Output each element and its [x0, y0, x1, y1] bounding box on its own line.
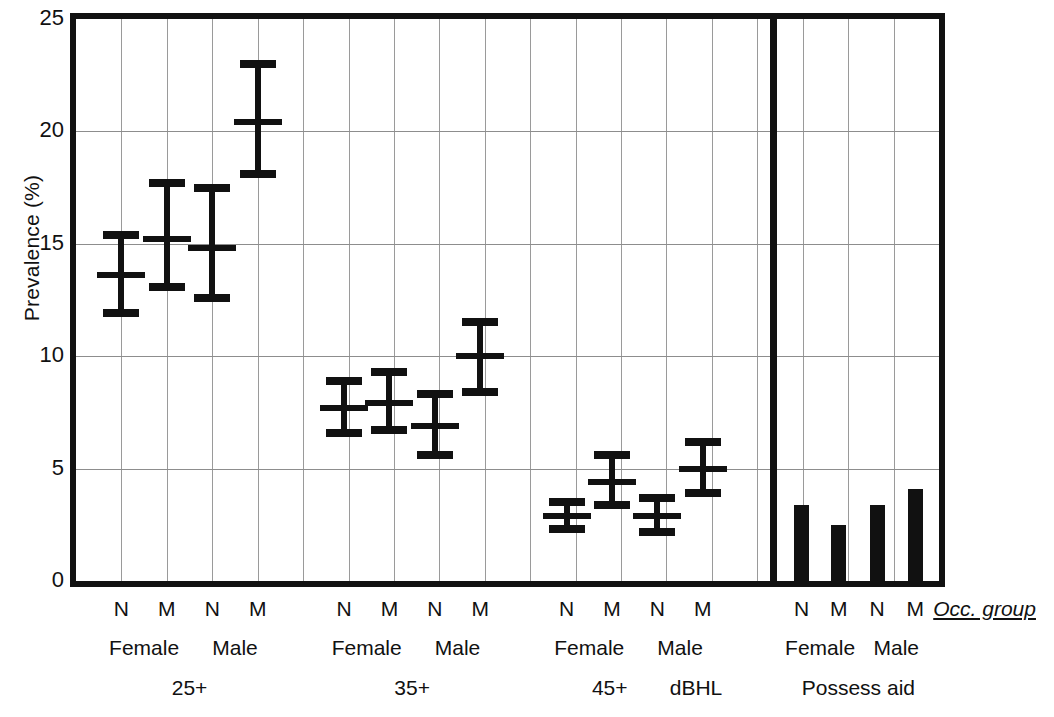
- x-axis-occ-label: M: [381, 596, 399, 622]
- x-axis-occ-row: NMNMNMNMNMNMNMNMOcc. group: [0, 596, 1054, 624]
- error-bar-stem: [164, 183, 170, 286]
- x-axis-group-label: 25+: [172, 675, 208, 701]
- gridline-vertical: [848, 19, 849, 581]
- x-axis-occ-label: N: [650, 596, 665, 622]
- gridline-vertical: [894, 19, 895, 581]
- x-axis-sex-label: Female: [109, 635, 179, 661]
- x-axis-occ-label: N: [870, 596, 885, 622]
- x-axis-occ-label: M: [471, 596, 489, 622]
- y-axis-tick-label: 25: [18, 7, 64, 29]
- value-bar: [870, 505, 885, 581]
- plot-inner: [76, 19, 939, 581]
- value-bar: [908, 489, 923, 581]
- x-axis-occ-label: N: [794, 596, 809, 622]
- gridline-vertical: [621, 19, 622, 581]
- x-axis-occ-label: N: [114, 596, 129, 622]
- error-bar-cap-lower: [326, 429, 362, 437]
- gridline-horizontal: [76, 356, 939, 357]
- error-bar-cap-lower: [462, 388, 498, 396]
- x-axis-sex-label: Male: [435, 635, 481, 661]
- x-axis-group-label: dBHL: [670, 675, 723, 701]
- error-bar-cap-lower: [149, 283, 185, 291]
- error-bar-mean-marker: [411, 423, 459, 429]
- gridline-vertical: [303, 19, 304, 581]
- gridline-horizontal: [76, 469, 939, 470]
- error-bar-mean-marker: [143, 236, 191, 242]
- error-bar-mean-marker: [188, 245, 236, 251]
- x-axis-occ-label: N: [336, 596, 351, 622]
- error-bar-mean-marker: [679, 466, 727, 472]
- x-axis-sex-label: Female: [332, 635, 402, 661]
- gridline-vertical: [394, 19, 395, 581]
- gridline-horizontal: [76, 131, 939, 132]
- y-axis-tick-label: 5: [18, 457, 64, 479]
- plot-frame: [70, 13, 945, 587]
- error-bar-cap-lower: [549, 525, 585, 533]
- occ-group-axis-note: Occ. group: [933, 596, 1036, 622]
- error-bar-mean-marker: [365, 400, 413, 406]
- x-axis-sex-label: Female: [554, 635, 624, 661]
- y-axis-tick-label: 0: [18, 569, 64, 591]
- error-bar-cap-upper: [685, 438, 721, 446]
- x-axis-occ-label: M: [907, 596, 925, 622]
- error-bar-cap-upper: [149, 179, 185, 187]
- x-axis-group-row: 25+35+45+dBHLPossess aid: [0, 675, 1054, 703]
- gridline-vertical: [576, 19, 577, 581]
- x-axis-group-label: 35+: [394, 675, 430, 701]
- x-axis-group-label: Possess aid: [802, 675, 915, 701]
- gridline-vertical: [167, 19, 168, 581]
- error-bar-stem: [209, 188, 215, 298]
- error-bar-cap-lower: [103, 309, 139, 317]
- error-bar-mean-marker: [588, 479, 636, 485]
- error-bar-mean-marker: [97, 272, 145, 278]
- error-bar-mean-marker: [456, 353, 504, 359]
- error-bar-mean-marker: [543, 513, 591, 519]
- x-axis-occ-label: M: [830, 596, 848, 622]
- x-axis-occ-label: M: [603, 596, 621, 622]
- error-bar-cap-upper: [462, 318, 498, 326]
- error-bar-cap-upper: [194, 184, 230, 192]
- y-axis-tick-label: 20: [18, 119, 64, 141]
- x-axis-sex-label: Male: [873, 635, 919, 661]
- gridline-vertical: [349, 19, 350, 581]
- x-axis-sex-label: Male: [212, 635, 258, 661]
- error-bar-cap-lower: [194, 294, 230, 302]
- error-bar-cap-upper: [240, 60, 276, 68]
- error-bar-cap-upper: [639, 494, 675, 502]
- error-bar-cap-upper: [594, 451, 630, 459]
- error-bar-cap-upper: [371, 368, 407, 376]
- error-bar-cap-upper: [417, 390, 453, 398]
- panel-divider: [770, 13, 777, 587]
- error-bar-mean-marker: [320, 405, 368, 411]
- value-bar: [831, 525, 846, 581]
- x-axis-occ-label: M: [249, 596, 267, 622]
- x-axis-occ-label: M: [158, 596, 176, 622]
- gridline-vertical: [803, 19, 804, 581]
- error-bar-cap-lower: [685, 489, 721, 497]
- error-bar-cap-lower: [240, 170, 276, 178]
- x-axis-occ-label: N: [559, 596, 574, 622]
- error-bar-mean-marker: [234, 119, 282, 125]
- error-bar-cap-lower: [639, 528, 675, 536]
- x-axis-group-label: 45+: [592, 675, 628, 701]
- x-axis-sex-row: FemaleMaleFemaleMaleFemaleMaleFemaleMale: [0, 635, 1054, 663]
- x-axis-occ-label: M: [694, 596, 712, 622]
- gridline-vertical: [757, 19, 758, 581]
- gridline-vertical: [530, 19, 531, 581]
- x-axis-occ-label: N: [427, 596, 442, 622]
- gridline-vertical: [485, 19, 486, 581]
- chart-root: Prevalence (%) 2520151050 NMNMNMNMNMNMNM…: [0, 0, 1054, 717]
- x-axis-occ-label: N: [205, 596, 220, 622]
- value-bar: [794, 505, 809, 581]
- error-bar-cap-lower: [594, 501, 630, 509]
- y-axis-tick-label: 10: [18, 344, 64, 366]
- x-axis-sex-label: Female: [785, 635, 855, 661]
- error-bar-cap-lower: [371, 426, 407, 434]
- error-bar-mean-marker: [633, 513, 681, 519]
- error-bar-cap-upper: [103, 231, 139, 239]
- y-axis-tick-label: 15: [18, 232, 64, 254]
- error-bar-cap-upper: [549, 498, 585, 506]
- error-bar-cap-upper: [326, 377, 362, 385]
- gridline-vertical: [439, 19, 440, 581]
- x-axis-sex-label: Male: [657, 635, 703, 661]
